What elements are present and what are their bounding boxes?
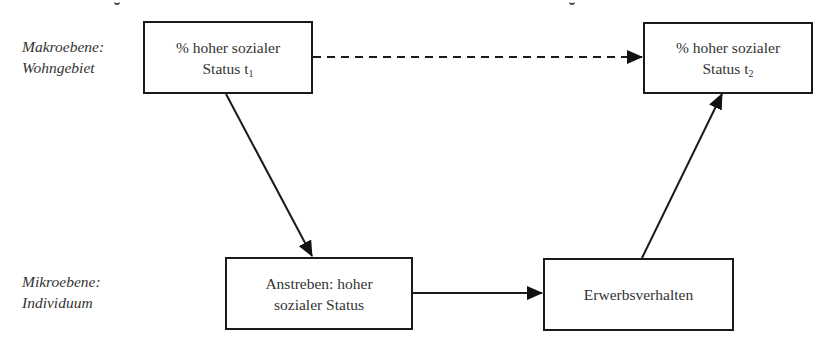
- node-aspiration: Anstreben: hoher sozialer Status: [225, 257, 413, 330]
- node-aspiration-line1: Anstreben: hoher: [265, 273, 372, 294]
- arrow-t1-to-aspiration: [226, 94, 312, 256]
- macro-level-title: Makroebene:: [22, 36, 104, 57]
- node-status-t2-subscript: 2: [749, 68, 754, 79]
- node-status-t1: % hoher sozialer Status t1: [143, 21, 313, 94]
- node-status-t1-line2: Status t1: [176, 58, 280, 79]
- node-status-t2-text: Status t: [702, 60, 748, 77]
- node-employment-label: Erwerbsverhalten: [584, 284, 693, 305]
- node-employment: Erwerbsverhalten: [543, 258, 734, 331]
- node-status-t1-text: Status t: [202, 60, 248, 77]
- macro-level-unit: Wohngebiet: [22, 57, 104, 78]
- node-aspiration-line2: sozialer Status: [265, 294, 372, 315]
- node-status-t2-line2: Status t2: [676, 58, 780, 79]
- node-status-t1-line1: % hoher sozialer: [176, 37, 280, 58]
- node-status-t2-line1: % hoher sozialer: [676, 37, 780, 58]
- macro-level-label: Makroebene: Wohngebiet: [22, 36, 104, 78]
- micro-level-label: Mikroebene: Individuum: [22, 271, 101, 313]
- micro-level-unit: Individuum: [22, 292, 101, 313]
- macro-micro-diagram: Makroebene: Wohngebiet Mikroebene: Indiv…: [0, 0, 833, 347]
- node-status-t1-subscript: 1: [249, 68, 254, 79]
- micro-level-title: Mikroebene:: [22, 271, 101, 292]
- arrow-employment-to-t2: [642, 94, 722, 258]
- node-status-t2: % hoher sozialer Status t2: [643, 22, 813, 94]
